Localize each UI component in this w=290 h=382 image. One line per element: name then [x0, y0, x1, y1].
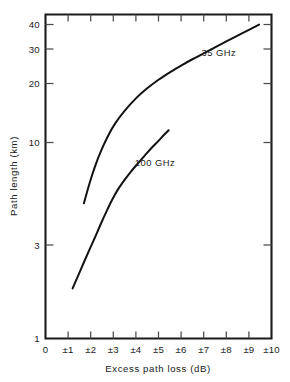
y-axis-ticks-left [46, 25, 54, 245]
x-axis-tick-labels: 0±1±2±3±4±5±6±7±8±9±10 [43, 344, 280, 355]
y-axis-tick-labels: 1310203040 [29, 19, 40, 344]
series-label-35-ghz: 35 GHz [201, 47, 236, 58]
series-label-100-ghz: 100 GHz [135, 157, 176, 168]
plot-border [46, 15, 272, 339]
y-tick-label: 10 [29, 137, 40, 148]
x-tick-label: ±7 [198, 344, 209, 355]
x-tick-label: ±8 [221, 344, 232, 355]
x-axis-title: Excess path loss (dB) [105, 363, 210, 374]
y-axis-title: Path length (km) [8, 136, 19, 216]
y-tick-label: 1 [34, 333, 39, 344]
x-tick-label: ±1 [63, 344, 74, 355]
y-tick-label: 20 [29, 78, 40, 89]
x-tick-label: ±5 [153, 344, 164, 355]
x-tick-label: ±6 [176, 344, 187, 355]
x-tick-label: ±10 [263, 344, 280, 355]
x-tick-label: ±2 [85, 344, 96, 355]
path-length-vs-excess-path-loss-chart: 0±1±2±3±4±5±6±7±8±9±10 1310203040 35 GHz… [0, 0, 290, 382]
x-tick-label: ±3 [108, 344, 119, 355]
y-axis-ticks-right [264, 25, 272, 245]
plot-frame [46, 15, 272, 339]
x-tick-label: ±4 [130, 344, 141, 355]
y-tick-label: 40 [29, 19, 40, 30]
x-tick-label: ±9 [243, 344, 254, 355]
figure-container: 0±1±2±3±4±5±6±7±8±9±10 1310203040 35 GHz… [0, 0, 290, 382]
x-tick-label: 0 [43, 344, 49, 355]
series-curve-100-ghz [73, 130, 169, 288]
y-tick-label: 30 [29, 44, 40, 55]
y-tick-label: 3 [34, 240, 39, 251]
